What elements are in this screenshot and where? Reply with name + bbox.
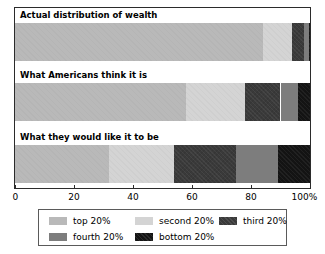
x-axis-tick-label: 20 [68,192,79,202]
legend-label: third 20% [243,216,287,226]
bar-segment-think-fourth20 [281,83,299,121]
bar-track-think [15,83,310,121]
bar-segment-think-bottom20 [298,83,310,121]
bar-label-desired: What they would like it to be [15,130,159,145]
bar-track-desired [15,145,310,183]
x-axis-tick-label: 80 [245,192,256,202]
x-axis-tick-mark [251,185,252,189]
x-axis-tick-mark [192,185,193,189]
x-axis-tick-mark [133,185,134,189]
bar-segment-actual-second20 [263,23,293,61]
bar-segment-desired-second20 [109,145,174,183]
bar-track-actual [15,23,310,61]
legend-item-top-20-[interactable]: top 20% [49,213,111,229]
bar-segment-desired-fourth20 [236,145,277,183]
x-axis-tick-mark [15,185,16,189]
bar-segment-actual-bottom20 [309,23,310,61]
wealth-distribution-chart: Actual distribution of wealth What Ameri… [0,0,325,254]
legend-row-2: fourth 20%bottom 20% [39,229,286,245]
x-axis-tick-label: 0 [12,192,18,202]
bar-segment-desired-top20 [15,145,109,183]
x-axis-tick-label: 60 [186,192,197,202]
legend-label: bottom 20% [159,232,214,242]
legend-label: second 20% [159,216,214,226]
bar-segment-desired-third20 [174,145,236,183]
bar-segment-think-top20 [15,83,186,121]
x-axis-tick-label: 100% [291,192,317,202]
legend-item-fourth-20-[interactable]: fourth 20% [49,229,123,245]
legend-swatch-icon [49,217,67,225]
stacked-bars-layer: Actual distribution of wealth What Ameri… [15,8,310,188]
legend-label: top 20% [73,216,111,226]
x-axis-tick-mark [74,185,75,189]
bar-segment-think-third20 [245,83,280,121]
chart-legend: top 20%second 20%third 20% fourth 20%bot… [38,209,287,246]
legend-item-second-20-[interactable]: second 20% [135,213,214,229]
legend-label: fourth 20% [73,232,123,242]
legend-swatch-icon [49,233,67,241]
bar-label-actual: Actual distribution of wealth [15,8,157,23]
bar-segment-actual-top20 [15,23,263,61]
legend-swatch-icon [135,233,153,241]
bar-segment-think-second20 [186,83,245,121]
bar-label-think: What Americans think it is [15,68,147,83]
x-axis-tick-mark [310,185,311,189]
x-axis: 020406080100% [15,189,310,211]
x-axis-tick-label: 40 [127,192,138,202]
bar-segment-actual-third20 [292,23,304,61]
legend-swatch-icon [135,217,153,225]
bar-segment-desired-bottom20 [278,145,310,183]
legend-row-1: top 20%second 20%third 20% [39,213,286,229]
legend-item-bottom-20-[interactable]: bottom 20% [135,229,214,245]
legend-swatch-icon [219,217,237,225]
legend-item-third-20-[interactable]: third 20% [219,213,287,229]
